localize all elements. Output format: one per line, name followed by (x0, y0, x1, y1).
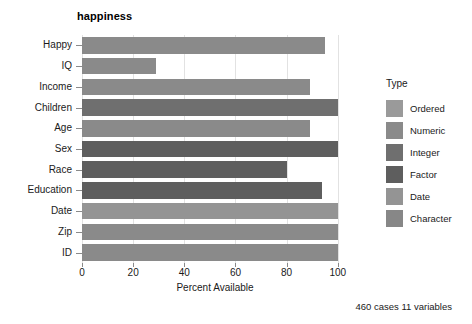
bar-education[interactable] (82, 182, 322, 199)
y-axis-label-race: Race (49, 164, 72, 175)
legend-label: Numeric (410, 125, 445, 136)
bar-row (82, 58, 348, 75)
legend-swatch-integer (386, 144, 403, 161)
y-axis-tick (76, 128, 82, 129)
y-axis-label-iq: IQ (61, 60, 72, 71)
bar-age[interactable] (82, 120, 310, 137)
bar-row (82, 37, 348, 54)
y-axis-tick (76, 190, 82, 191)
bar-happy[interactable] (82, 37, 325, 54)
bar-children[interactable] (82, 99, 338, 116)
y-axis-label-zip: Zip (58, 226, 72, 237)
y-axis-label-sex: Sex (55, 143, 72, 154)
chart-caption: 460 cases 11 variables (0, 301, 452, 312)
chart-figure: happiness HappyIQIncomeChildrenAgeSexRac… (0, 0, 472, 324)
y-axis-tick (76, 87, 82, 88)
x-axis-tick-label: 20 (128, 267, 139, 278)
bar-row (82, 99, 348, 116)
bar-race[interactable] (82, 161, 287, 178)
x-axis-tick-label: 40 (179, 267, 190, 278)
legend-label: Date (410, 191, 430, 202)
bar-iq[interactable] (82, 58, 156, 75)
bar-zip[interactable] (82, 224, 338, 241)
legend-label: Factor (410, 169, 437, 180)
y-axis-label-children: Children (35, 102, 72, 113)
y-axis-label-education: Education (28, 184, 72, 195)
bar-date[interactable] (82, 203, 338, 220)
y-axis-tick (76, 149, 82, 150)
bar-id[interactable] (82, 244, 338, 261)
y-axis-label-date: Date (51, 205, 72, 216)
y-axis-tick (76, 45, 82, 46)
y-axis-label-happy: Happy (43, 39, 72, 50)
y-axis-tick (76, 211, 82, 212)
bar-row (82, 203, 348, 220)
legend-swatch-character (386, 210, 403, 227)
y-axis-label-income: Income (39, 81, 72, 92)
y-axis-label-age: Age (54, 122, 72, 133)
legend-swatch-factor (386, 166, 403, 183)
legend-swatch-date (386, 188, 403, 205)
bar-row (82, 182, 348, 199)
y-axis-tick (76, 66, 82, 67)
bar-row (82, 79, 348, 96)
bar-row (82, 224, 348, 241)
x-axis-tick-label: 0 (79, 267, 85, 278)
y-axis: HappyIQIncomeChildrenAgeSexRaceEducation… (0, 35, 82, 263)
legend-swatch-numeric (386, 122, 403, 139)
legend-label: Ordered (410, 103, 445, 114)
bar-row (82, 120, 348, 137)
x-axis-tick-label: 60 (230, 267, 241, 278)
y-axis-tick (76, 170, 82, 171)
legend-swatch-ordered (386, 100, 403, 117)
legend-label: Character (410, 213, 452, 224)
x-axis-title: Percent Available (82, 282, 348, 293)
x-axis-tick-label: 80 (281, 267, 292, 278)
legend-label: Integer (410, 147, 440, 158)
y-axis-tick (76, 253, 82, 254)
page-title: happiness (77, 10, 132, 22)
y-axis-tick (76, 108, 82, 109)
legend-title: Type (386, 78, 408, 89)
bar-row (82, 141, 348, 158)
bar-row (82, 244, 348, 261)
x-axis-tick-label: 100 (329, 267, 346, 278)
bar-sex[interactable] (82, 141, 338, 158)
x-axis: 020406080100 (82, 263, 348, 283)
plot-panel (82, 35, 348, 263)
bar-income[interactable] (82, 79, 310, 96)
bar-row (82, 161, 348, 178)
y-axis-tick (76, 232, 82, 233)
y-axis-label-id: ID (62, 247, 72, 258)
